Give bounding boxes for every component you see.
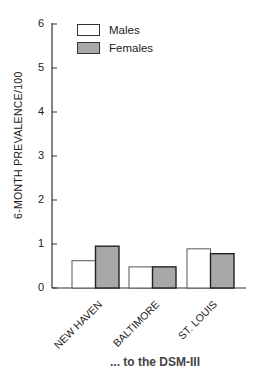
y-tick-label: 3 (30, 149, 44, 161)
bar-baltimore-females (153, 267, 177, 288)
y-axis-label: 6-MONTH PREVALENCE/100 (12, 79, 24, 219)
legend-males: Males (77, 24, 140, 36)
bar-st-louis-males (187, 249, 211, 288)
y-tick-label: 1 (30, 237, 44, 249)
legend-label-females: Females (109, 42, 153, 54)
legend-females: Females (77, 42, 153, 54)
y-tick-label: 5 (30, 61, 44, 73)
bars (72, 246, 234, 288)
legend-swatch-males (77, 24, 100, 36)
legend-swatch-females (77, 42, 100, 54)
bar-st-louis-females (211, 254, 235, 288)
bar-new-haven-females (96, 246, 120, 288)
caption-fragment: ... to the DSM-III (110, 355, 200, 369)
y-tick-label: 0 (30, 281, 44, 293)
bar-baltimore-males (129, 267, 153, 288)
y-ticks (52, 24, 57, 288)
y-tick-label: 2 (30, 193, 44, 205)
y-tick-label: 6 (30, 17, 44, 29)
bar-new-haven-males (72, 261, 96, 288)
legend-label-males: Males (109, 24, 140, 36)
y-tick-label: 4 (30, 105, 44, 117)
